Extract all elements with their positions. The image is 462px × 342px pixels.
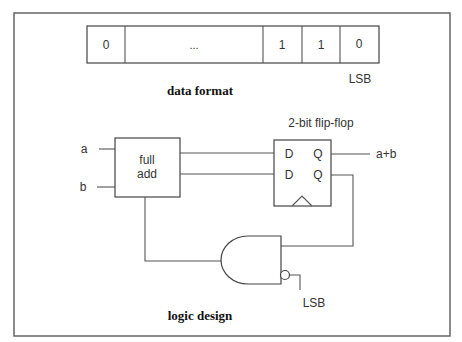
gate-lsb-label: LSB (303, 296, 326, 310)
register-cell-lsb: 0 (356, 37, 363, 51)
flip-flop: D D Q Q (274, 140, 331, 206)
inverter-bubble-icon (281, 271, 290, 280)
logic-design-caption: logic design (168, 308, 233, 323)
input-b-label: b (80, 180, 87, 194)
register-outline (87, 26, 379, 63)
register-cell-msb: 0 (103, 38, 110, 52)
input-a-label: a (81, 142, 88, 156)
and-gate-body (221, 236, 281, 284)
register-cell: 1 (279, 38, 286, 52)
data-format-caption: data format (167, 83, 234, 98)
flip-flop-q1: Q (313, 147, 322, 161)
full-adder: full add (115, 138, 180, 197)
full-adder-label: add (137, 167, 157, 181)
register-cell-ellipsis: ... (189, 39, 198, 51)
lsb-label: LSB (349, 72, 372, 86)
full-adder-label: full (139, 153, 154, 167)
flip-flop-d2: D (285, 168, 294, 182)
circuit-diagram: 0 ... 1 1 0 LSB data format full add a b… (0, 0, 462, 342)
output-label: a+b (376, 147, 397, 161)
flip-flop-title: 2-bit flip-flop (288, 116, 354, 130)
flip-flop-d1: D (285, 147, 294, 161)
and-gate-icon (221, 236, 290, 284)
flip-flop-q2: Q (313, 168, 322, 182)
register-cell: 1 (318, 38, 325, 52)
